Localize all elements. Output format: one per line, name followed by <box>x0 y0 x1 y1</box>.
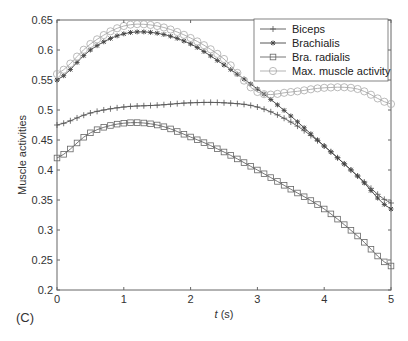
asterisk-marker <box>282 108 287 113</box>
y-tick-label: 0.35 <box>32 194 53 206</box>
asterisk-marker <box>322 144 327 149</box>
y-tick-label: 0.65 <box>32 14 53 26</box>
legend-label: Bra. radialis <box>292 51 351 63</box>
asterisk-marker <box>61 73 66 78</box>
y-tick-label: 0.3 <box>38 224 53 236</box>
legend-label: Brachialis <box>292 37 340 49</box>
asterisk-marker <box>75 60 80 65</box>
panel-label: (C) <box>16 310 34 325</box>
asterisk-marker <box>88 48 93 53</box>
asterisk-marker <box>148 30 153 35</box>
asterisk-marker <box>375 196 380 201</box>
asterisk-marker <box>168 34 173 39</box>
asterisk-marker <box>355 174 360 179</box>
asterisk-marker <box>271 41 276 46</box>
y-tick-label: 0.5 <box>38 104 53 116</box>
asterisk-marker <box>181 39 186 44</box>
legend-label: Max. muscle activity <box>292 65 391 77</box>
asterisk-marker <box>368 188 373 193</box>
asterisk-marker <box>335 155 340 160</box>
y-tick-label: 0.4 <box>38 164 53 176</box>
y-tick-label: 0.6 <box>38 44 53 56</box>
asterisk-marker <box>121 31 126 36</box>
asterisk-marker <box>348 167 353 172</box>
asterisk-marker <box>135 29 140 34</box>
y-tick-label: 0.25 <box>32 254 53 266</box>
asterisk-marker <box>95 43 100 48</box>
x-tick-label: 1 <box>121 293 127 305</box>
asterisk-marker <box>155 31 160 36</box>
x-tick-label: 5 <box>388 293 394 305</box>
asterisk-marker <box>382 202 387 207</box>
x-tick-label: 3 <box>254 293 260 305</box>
legend: BicepsBrachialisBra. radialisMax. muscle… <box>254 19 391 81</box>
asterisk-marker <box>215 58 220 63</box>
x-axis-label: t (s) <box>215 308 234 320</box>
asterisk-marker <box>101 39 106 44</box>
x-tick-label: 4 <box>321 293 327 305</box>
asterisk-marker <box>389 207 394 212</box>
asterisk-marker <box>115 33 120 38</box>
asterisk-marker <box>342 161 347 166</box>
asterisk-marker <box>222 63 227 68</box>
asterisk-marker <box>315 137 320 142</box>
y-tick-label: 0.45 <box>32 134 53 146</box>
line-chart: 0123450.20.250.30.350.40.450.50.550.60.6… <box>0 0 408 341</box>
y-tick-label: 0.55 <box>32 74 53 86</box>
x-axis-label-unit: (s) <box>218 308 234 320</box>
y-tick-label: 0.2 <box>38 284 53 296</box>
legend-label: Biceps <box>292 23 326 35</box>
asterisk-marker <box>68 67 73 72</box>
asterisk-marker <box>208 53 213 58</box>
asterisk-marker <box>108 36 113 41</box>
asterisk-marker <box>141 29 146 34</box>
asterisk-marker <box>295 119 300 124</box>
asterisk-marker <box>201 49 206 54</box>
asterisk-marker <box>81 53 86 58</box>
asterisk-marker <box>362 180 367 185</box>
y-axis-label: Muscle activities <box>16 114 28 195</box>
asterisk-marker <box>175 36 180 41</box>
asterisk-marker <box>128 30 133 35</box>
asterisk-marker <box>195 45 200 50</box>
asterisk-marker <box>275 102 280 107</box>
asterisk-marker <box>302 125 307 130</box>
asterisk-marker <box>161 32 166 37</box>
x-tick-label: 2 <box>188 293 194 305</box>
x-tick-label: 0 <box>54 293 60 305</box>
asterisk-marker <box>188 42 193 47</box>
asterisk-marker <box>308 131 313 136</box>
asterisk-marker <box>328 149 333 154</box>
asterisk-marker <box>288 114 293 119</box>
